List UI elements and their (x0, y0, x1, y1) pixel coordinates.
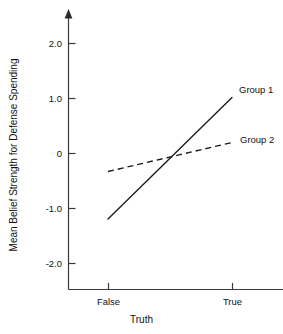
chart-figure: 2.0 1.0 0 -1.0 -2.0 False True Group 1 G… (0, 0, 283, 334)
y-tick-label-neg1: -1.0 (30, 204, 62, 214)
plot-area (0, 0, 283, 334)
series-label-group-1: Group 1 (239, 85, 273, 95)
y-tick-label-2: 2.0 (30, 39, 62, 49)
y-tick-label-0: 0 (30, 149, 62, 159)
y-tick-label-1: 1.0 (30, 94, 62, 104)
x-axis-title: Truth (0, 315, 283, 325)
x-tick-label-true: True (202, 297, 263, 307)
y-axis-arrowhead (65, 9, 73, 19)
y-axis-title: Mean Belief Strength for Defense Spendin… (9, 30, 19, 280)
y-tick-label-neg2: -2.0 (30, 259, 62, 269)
x-tick-label-false: False (78, 297, 139, 307)
series-line-group-2 (108, 143, 232, 172)
series-line-group-1 (108, 98, 232, 220)
series-label-group-2: Group 2 (240, 135, 274, 145)
